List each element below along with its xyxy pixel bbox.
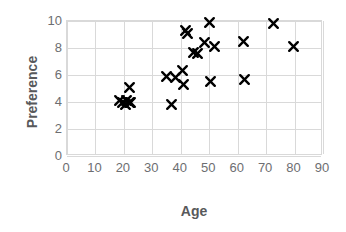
y-axis-tick-label: 8 [22, 40, 62, 55]
x-axis-tick-label: 90 [305, 160, 339, 175]
x-axis-title: Age [66, 203, 322, 219]
x-axis-tick-labels: 0102030405060708090 [66, 0, 322, 232]
y-axis-tick-label: 4 [22, 94, 62, 109]
y-axis-tick-labels: 0246810 [18, 0, 62, 232]
scatter-chart: Preference 0246810 0102030405060708090 A… [0, 0, 346, 232]
y-axis-tick-label: 2 [22, 121, 62, 136]
y-axis-tick-label: 6 [22, 67, 62, 82]
gridline-vertical [323, 21, 324, 154]
y-axis-tick-label: 10 [22, 13, 62, 28]
